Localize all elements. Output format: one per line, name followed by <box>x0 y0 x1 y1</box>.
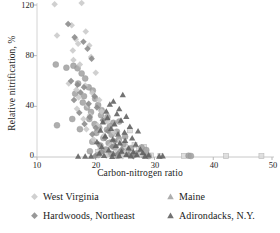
scatter-chart-figure: 120 80 40 0 10 20 30 40 50 Carbon-nitrog… <box>0 0 280 233</box>
diamond-icon <box>30 211 39 220</box>
legend-item-hardwoods-northeast[interactable]: Hardwoods, Northeast <box>30 210 135 221</box>
legend-label: Hardwoods, Northeast <box>43 210 135 221</box>
legend-label: Adirondacks, N.Y. <box>179 210 255 221</box>
legend-item-west-virginia[interactable]: West Virginia <box>30 191 99 202</box>
series-maine <box>53 62 194 159</box>
legend-item-maine[interactable]: Maine <box>166 191 205 202</box>
legend-label: Maine <box>179 191 205 202</box>
y-tick-120: 120 <box>8 0 34 10</box>
legend-label: West Virginia <box>43 191 99 202</box>
data-point-layer <box>51 0 264 160</box>
triangle-icon <box>166 211 175 220</box>
triangle-icon <box>166 192 175 201</box>
x-axis-title: Carbon-nitrogen ratio <box>0 168 280 178</box>
chart-legend: West Virginia Maine Hardwoods, Northeast… <box>0 186 280 233</box>
diamond-icon <box>30 192 39 201</box>
legend-item-adirondacks-ny[interactable]: Adirondacks, N.Y. <box>166 210 255 221</box>
y-axis-title: Relative nitrification, % <box>7 13 17 153</box>
